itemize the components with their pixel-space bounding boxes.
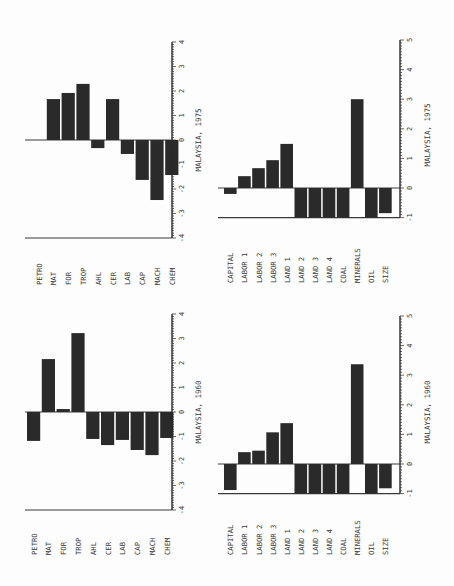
bar-labor-1 [238, 452, 251, 464]
bar-land-1 [280, 423, 293, 464]
category-label: MINERALS [353, 248, 362, 283]
bar-labor-2 [252, 168, 265, 188]
bar-labor-3 [266, 432, 279, 464]
bar-mat [47, 99, 60, 140]
bar-ahl [91, 140, 104, 148]
tick-label: 1 [406, 156, 414, 160]
chart-title: MALAYSIA, 1975 [423, 103, 432, 166]
tick-label: 0 [406, 462, 414, 466]
category-label: COAL [339, 266, 348, 283]
category-label: LAND 4 [325, 529, 334, 555]
tick-label: -4 [178, 506, 186, 514]
tick-label: -1 [406, 489, 414, 497]
bar-trop [71, 333, 84, 412]
category-label: CAPITAL [226, 253, 235, 283]
tick-label: 2 [406, 403, 414, 407]
category-label: LAND 2 [297, 257, 306, 283]
bar-cap [136, 140, 149, 180]
category-label: COAL [339, 538, 348, 555]
category-label: MACH [148, 538, 157, 555]
category-label: OIL [367, 542, 376, 555]
category-label: LABOR 2 [255, 253, 264, 283]
bar-land-4 [323, 188, 336, 218]
bar-labor-2 [252, 451, 265, 464]
category-label: LAND 1 [283, 257, 292, 283]
bar-for [57, 409, 70, 412]
category-label: LAND 3 [311, 257, 320, 283]
tick-label: 5 [406, 314, 414, 318]
category-label: LAND 2 [297, 529, 306, 555]
tick-label: 0 [178, 138, 186, 142]
category-label: MINERALS [353, 520, 362, 555]
tick-label: -3 [178, 209, 186, 217]
tick-label: 3 [178, 64, 186, 68]
bar-land-4 [323, 464, 336, 494]
tick-label: 0 [178, 410, 186, 414]
chart-title: MALAYSIA, 1960 [194, 380, 203, 444]
category-label: TROP [79, 268, 88, 285]
tick-label: -4 [178, 234, 186, 242]
bar-oil [365, 464, 378, 494]
bar-mat [42, 359, 55, 412]
category-label: TROP [74, 538, 83, 555]
category-label: LAND 4 [325, 257, 334, 283]
bar-minerals [351, 364, 364, 464]
chart-panel-trade-1975: PETROMATFORTROPAHLCERLABCAPMACHCHEM-4-3-… [25, 40, 203, 285]
scanned-page: PETROMATFORTROPAHLCERLABCAPMACHCHEM-4-3-… [0, 0, 454, 586]
tick-label: 5 [406, 38, 414, 42]
category-label: OIL [367, 270, 376, 283]
tick-label: 3 [406, 373, 414, 377]
category-label: PETRO [35, 263, 44, 285]
category-label: SIZE [381, 538, 390, 555]
category-label: LAB [123, 272, 132, 285]
tick-label: 4 [178, 312, 186, 316]
bar-petro [27, 412, 40, 441]
category-label: CHEM [168, 267, 177, 285]
tick-label: -2 [178, 457, 186, 465]
category-label: MACH [153, 268, 162, 285]
category-label: LABOR 1 [240, 525, 249, 555]
bar-land-3 [309, 464, 322, 494]
bar-minerals [351, 99, 364, 188]
bar-lab [121, 140, 134, 154]
bar-land-2 [295, 464, 308, 494]
bar-for [62, 93, 75, 140]
bar-capital [224, 188, 237, 194]
bar-labor-1 [238, 176, 251, 188]
bar-size [379, 188, 392, 213]
category-label: CAPITAL [226, 525, 235, 555]
bar-mach [145, 412, 158, 455]
tick-label: 3 [178, 336, 186, 340]
category-label: MAT [44, 541, 53, 555]
chart-title: MALAYSIA, 1960 [423, 380, 432, 444]
tick-label: 1 [178, 113, 186, 117]
tick-label: -1 [406, 213, 414, 221]
tick-label: 2 [178, 361, 186, 365]
category-label: LAB [118, 542, 127, 555]
category-label: SIZE [381, 266, 390, 283]
tick-label: 4 [406, 343, 414, 347]
category-label: CER [104, 541, 113, 555]
tick-label: 3 [406, 97, 414, 101]
bar-mach [150, 140, 163, 200]
bar-land-1 [280, 144, 293, 188]
tick-label: 2 [178, 89, 186, 93]
category-label: MAT [49, 271, 58, 285]
tick-label: 2 [406, 127, 414, 131]
tick-label: 4 [406, 67, 414, 71]
chart-panel-factors-1960: CAPITALLABOR 1LABOR 2LABOR 3LAND 1LAND 2… [218, 314, 432, 555]
category-label: CAP [138, 272, 147, 285]
bar-ahl [86, 412, 99, 439]
category-label: CHEM [163, 537, 172, 555]
category-label: FOR [64, 271, 73, 285]
bar-capital [224, 464, 237, 490]
tick-label: -3 [178, 481, 186, 489]
chart-panel-factors-1975: CAPITALLABOR 1LABOR 2LABOR 3LAND 1LAND 2… [218, 38, 432, 283]
bar-labor-3 [266, 160, 279, 188]
bar-lab [116, 412, 129, 440]
category-label: PETRO [30, 533, 39, 555]
category-label: LAND 1 [283, 529, 292, 555]
category-label: CER [109, 271, 118, 285]
bar-land-3 [309, 188, 322, 218]
tick-label: -2 [178, 185, 186, 193]
